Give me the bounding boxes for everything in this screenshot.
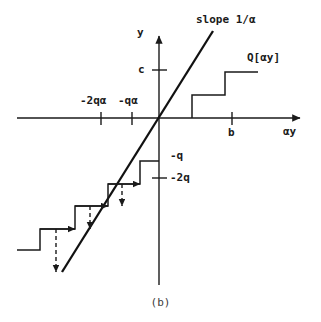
staircase-annotation-label: Q[αy] xyxy=(247,52,280,63)
y-tick-label-neg-q: -q xyxy=(170,150,183,161)
y-axis-label: y xyxy=(137,27,144,38)
figure-panel: slope 1/α Q[αy] y αy c -q -2q -2qα -qα b… xyxy=(0,0,321,322)
x-tick-label-neg-q-alpha: -qα xyxy=(118,95,138,106)
figure-caption: (b) xyxy=(0,296,321,309)
x-tick-label-neg-2q-alpha: -2qα xyxy=(80,95,107,106)
cobweb-arrow-group xyxy=(40,184,140,272)
y-tick-label-neg-2q: -2q xyxy=(170,172,190,183)
y-tick-label-c: c xyxy=(138,64,145,75)
plot-canvas xyxy=(0,0,321,322)
staircase-positive xyxy=(192,72,258,118)
slope-annotation-label: slope 1/α xyxy=(196,14,256,25)
x-axis-label: αy xyxy=(283,126,296,137)
x-tick-label-b: b xyxy=(228,127,235,138)
